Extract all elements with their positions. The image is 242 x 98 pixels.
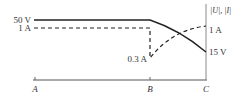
voltage-curve xyxy=(34,20,206,52)
current-curve xyxy=(34,26,206,58)
label-current-start: 1 A xyxy=(18,23,31,33)
label-current-drop: 0.3 A xyxy=(127,54,147,64)
label-voltage-end: 15 V xyxy=(209,47,227,57)
diagram-canvas: 50 V 1 A 0.3 A 1 A 15 V |U|, |I| A B C xyxy=(0,0,242,98)
point-c-label: C xyxy=(203,84,210,94)
point-b-label: B xyxy=(147,84,153,94)
label-current-end: 1 A xyxy=(209,25,222,35)
axis-label: |U|, |I| xyxy=(210,6,231,15)
point-a-label: A xyxy=(31,84,38,94)
